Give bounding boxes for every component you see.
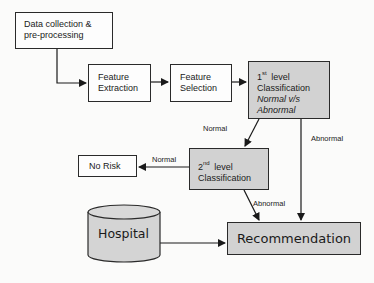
- data-collection-line2: pre-processing: [24, 30, 104, 41]
- first-level-superscript: st: [262, 70, 267, 76]
- second-level-word: level: [214, 162, 233, 172]
- first-level-classification-node: 1st level Classification Normal v/s Abno…: [248, 61, 330, 119]
- no-risk-node: No Risk: [78, 155, 137, 177]
- second-level-heading: 2nd level: [198, 158, 260, 173]
- no-risk-label: No Risk: [89, 161, 121, 171]
- feature-extraction-line1: Feature: [98, 72, 141, 83]
- feature-selection-line1: Feature: [180, 72, 222, 83]
- hospital-label: Hospital: [98, 226, 149, 241]
- recommendation-node: Recommendation: [227, 222, 361, 255]
- edge-label-second-to-recommendation: Abnormal: [253, 199, 285, 208]
- edge-label-first-to-recommendation: Abnormal: [311, 134, 343, 143]
- diagram-canvas: Data collection & pre-processing Feature…: [0, 0, 374, 283]
- data-collection-node: Data collection & pre-processing: [15, 12, 113, 49]
- first-level-word: level: [271, 72, 290, 82]
- arrow-first-to-second-level: [245, 119, 259, 146]
- feature-selection-node: Feature Selection: [170, 64, 232, 102]
- first-level-line4: Abnormal: [257, 105, 321, 116]
- first-level-line3: Normal v/s: [257, 94, 321, 105]
- feature-extraction-node: Feature Extraction: [88, 64, 151, 102]
- edge-label-second-to-no-risk: Normal: [152, 155, 176, 164]
- feature-extraction-line2: Extraction: [98, 83, 141, 94]
- arrow-data-to-extraction: [57, 48, 86, 83]
- feature-selection-line2: Selection: [180, 83, 222, 94]
- data-collection-line1: Data collection &: [24, 19, 104, 30]
- second-level-line2: Classification: [198, 173, 260, 184]
- second-level-superscript: nd: [203, 160, 210, 166]
- edge-label-first-to-second: Normal: [203, 124, 227, 133]
- first-level-line2: Classification: [257, 83, 321, 94]
- first-level-heading: 1st level: [257, 68, 321, 83]
- second-level-classification-node: 2nd level Classification: [189, 148, 269, 190]
- recommendation-label: Recommendation: [237, 233, 351, 244]
